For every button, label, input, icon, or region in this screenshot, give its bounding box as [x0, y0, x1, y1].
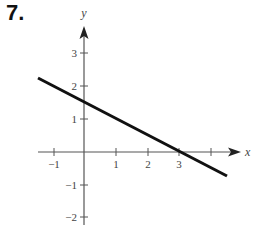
svg-text:1: 1: [72, 113, 78, 125]
svg-text:−1: −1: [65, 179, 77, 191]
svg-text:3: 3: [72, 47, 78, 59]
x-axis: −1 1 2 3 x: [38, 145, 251, 170]
svg-text:y: y: [80, 6, 87, 20]
svg-text:1: 1: [113, 158, 119, 170]
svg-text:−2: −2: [65, 211, 77, 223]
svg-text:x: x: [244, 145, 251, 159]
data-line: [38, 78, 227, 176]
svg-text:−1: −1: [48, 158, 60, 170]
svg-text:3: 3: [176, 158, 182, 170]
chart: −1 1 2 3 x 3 2 1 −1 −2 y: [0, 0, 257, 227]
svg-text:2: 2: [72, 80, 78, 92]
y-axis: 3 2 1 −1 −2 y: [65, 6, 88, 225]
svg-text:2: 2: [145, 158, 151, 170]
